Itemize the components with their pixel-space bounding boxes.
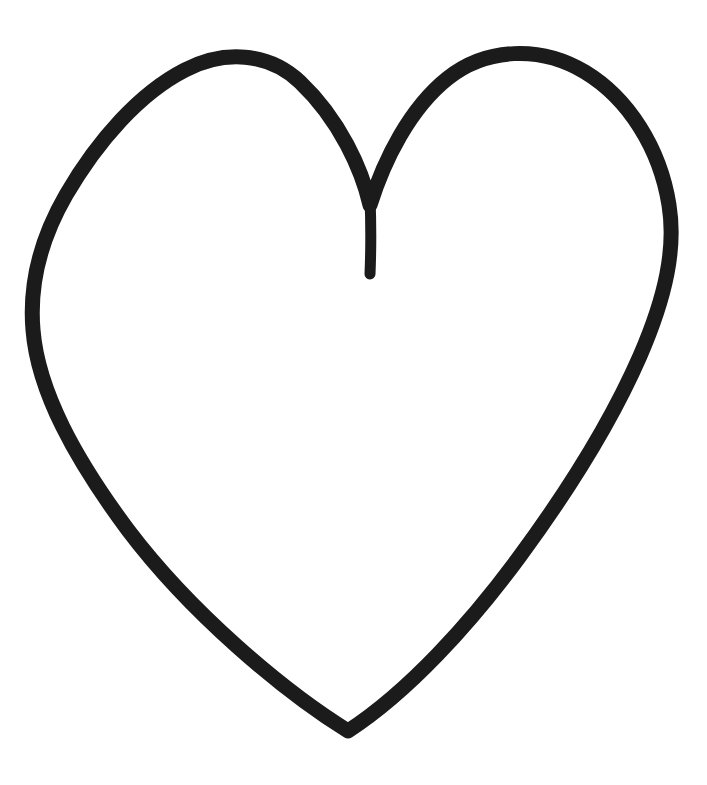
canvas-background xyxy=(0,0,707,785)
heart-drawing-svg xyxy=(0,0,707,785)
heart-cleft-stem-path xyxy=(370,198,371,274)
drawing-canvas xyxy=(0,0,707,785)
